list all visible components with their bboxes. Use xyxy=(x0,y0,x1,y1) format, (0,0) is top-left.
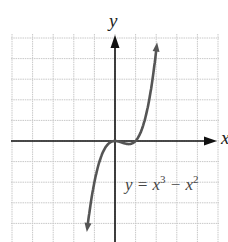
curve-arrow-down-icon xyxy=(85,223,92,232)
equation-exp-2: 2 xyxy=(193,173,199,185)
function-graph xyxy=(0,0,228,242)
axes xyxy=(11,35,217,242)
equation-lhs: y = x xyxy=(125,175,160,194)
curve-cubic xyxy=(88,49,157,226)
y-axis-label: y xyxy=(109,10,117,32)
x-axis-label: x xyxy=(221,127,228,149)
equation-mid: − x xyxy=(166,175,194,194)
equation-label: y = x3 − x2 xyxy=(125,173,199,195)
